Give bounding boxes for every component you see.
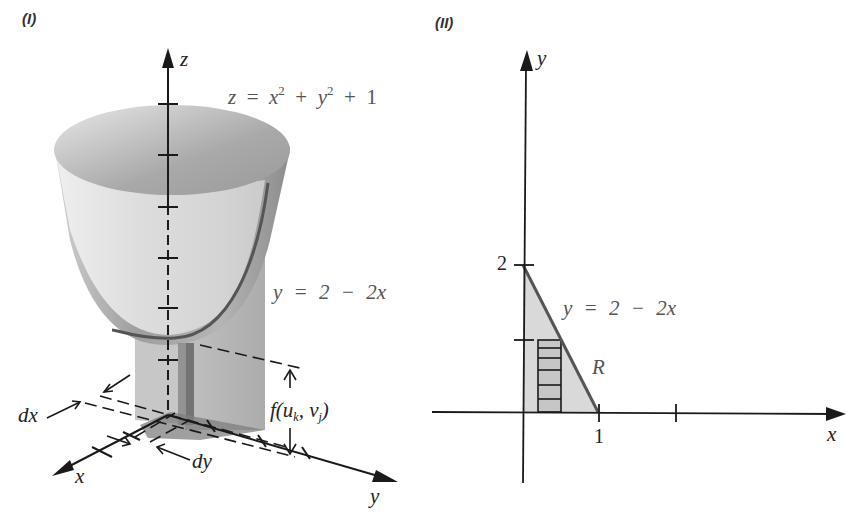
y-axis-2d-arrow xyxy=(520,50,533,71)
riemann-strip xyxy=(538,340,561,412)
y-tick-label-2: 2 xyxy=(497,252,507,275)
region-label: R xyxy=(592,355,605,380)
y-axis-2d-label: y xyxy=(537,46,546,71)
x-tick-label-1: 1 xyxy=(594,425,604,448)
line-equation: y = 2 − 2x xyxy=(563,296,676,321)
x-axis-2d-arrow xyxy=(826,407,846,421)
x-axis-2d-label: x xyxy=(827,422,836,447)
x-axis-2d xyxy=(432,412,835,414)
right-2d-figure xyxy=(0,0,860,524)
